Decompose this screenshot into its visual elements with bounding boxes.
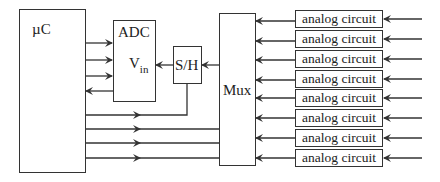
microcontroller-label: µC: [32, 21, 51, 38]
microcontroller-block: µC: [19, 9, 86, 173]
analog-circuit-block-4: analog circuit: [295, 70, 383, 88]
analog-circuit-block-5: analog circuit: [295, 89, 383, 107]
analog-circuit-block-2: analog circuit: [295, 30, 383, 48]
mux-label: Mux: [223, 82, 251, 99]
analog-circuit-block-6: analog circuit: [295, 109, 383, 127]
adc-block: ADC Vin: [113, 20, 156, 102]
adc-vin-label: Vin: [129, 55, 148, 75]
analog-circuit-block-7: analog circuit: [295, 129, 383, 147]
mux-block: Mux: [219, 13, 256, 166]
sample-hold-label: S/H: [175, 57, 198, 74]
adc-vin-subscript: in: [140, 63, 149, 75]
adc-vin-letter: V: [129, 55, 140, 71]
analog-circuit-block-3: analog circuit: [295, 50, 383, 68]
adc-label: ADC: [118, 24, 150, 41]
analog-circuit-block-1: analog circuit: [295, 10, 383, 28]
sample-hold-block: S/H: [173, 46, 202, 84]
analog-circuit-block-8: analog circuit: [295, 149, 383, 167]
